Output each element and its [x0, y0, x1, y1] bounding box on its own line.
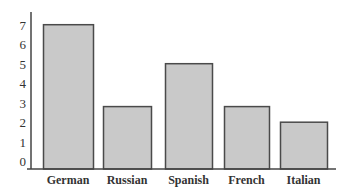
- y-tick-label: 5: [12, 58, 26, 71]
- y-tick-label: 3: [12, 97, 26, 110]
- y-tick-label: 0: [12, 155, 26, 168]
- x-category-label: Spanish: [155, 173, 222, 188]
- y-tick-label: 4: [12, 77, 26, 90]
- bar-spanish: [166, 64, 213, 169]
- x-category-label: Russian: [93, 173, 161, 188]
- bar-chart: 01234567 GermanRussianSpanishFrenchItali…: [0, 0, 361, 194]
- plot-area: [0, 0, 361, 194]
- y-tick-label: 1: [12, 136, 26, 149]
- y-tick-label: 6: [12, 38, 26, 51]
- y-tick-label: 7: [12, 19, 26, 32]
- bar-italian: [281, 122, 328, 169]
- bar-german: [44, 25, 94, 169]
- y-tick-label: 2: [12, 116, 26, 129]
- bar-french: [225, 107, 270, 169]
- x-category-label: Italian: [270, 173, 337, 188]
- bar-russian: [104, 107, 152, 169]
